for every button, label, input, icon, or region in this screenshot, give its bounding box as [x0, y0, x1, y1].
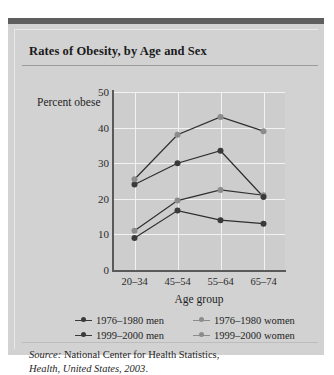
- data-point: [218, 114, 224, 120]
- data-point: [132, 176, 138, 182]
- source-prefix: Source:: [29, 349, 61, 360]
- data-point: [218, 148, 224, 154]
- legend-item: 1976–1980 women: [193, 315, 311, 326]
- x-axis-title: Age group: [113, 293, 285, 305]
- legend-item: 1999–2000 men: [75, 330, 193, 341]
- page-title: Rates of Obesity, by Age and Sex: [29, 44, 207, 59]
- legend-label: 1999–2000 men: [96, 330, 164, 341]
- x-tick-label: 65–74: [237, 276, 291, 287]
- data-point: [218, 217, 224, 223]
- legend-label: 1999–2000 women: [214, 330, 295, 341]
- data-point: [218, 187, 224, 193]
- source-text: National Center for Health Statistics,: [61, 349, 219, 360]
- figure-inner-panel: Rates of Obesity, by Age and Sex Percent…: [14, 29, 318, 349]
- legend-marker-icon: [193, 316, 210, 325]
- data-point: [132, 235, 138, 241]
- chart-legend: 1976–1980 men1976–1980 women1999–2000 me…: [75, 313, 311, 343]
- series-line: [135, 190, 264, 231]
- data-point: [175, 208, 181, 214]
- series-plot: [15, 60, 319, 288]
- data-point: [261, 221, 267, 227]
- legend-label: 1976–1980 women: [214, 315, 295, 326]
- chart-area: Percent obese 01020304050 Age group 20–3…: [15, 60, 319, 288]
- source-note: Source: National Center for Health Stati…: [29, 348, 309, 375]
- legend-row: 1999–2000 men1999–2000 women: [75, 328, 311, 343]
- series-line: [135, 211, 264, 238]
- legend-label: 1976–1980 men: [96, 315, 164, 326]
- source-suffix: .: [145, 363, 148, 374]
- source-citation: Health, United States, 2003: [29, 363, 145, 374]
- legend-row: 1976–1980 men1976–1980 women: [75, 313, 311, 328]
- legend-marker-icon: [193, 331, 210, 340]
- data-point: [175, 198, 181, 204]
- legend-item: 1999–2000 women: [193, 330, 311, 341]
- figure-top-bar: [8, 18, 324, 24]
- series-line: [135, 117, 264, 179]
- data-point: [261, 128, 267, 134]
- data-point: [132, 228, 138, 234]
- figure-panel: Rates of Obesity, by Age and Sex Percent…: [8, 18, 324, 355]
- data-point: [261, 194, 267, 200]
- data-point: [175, 132, 181, 138]
- data-point: [132, 182, 138, 188]
- series-line: [135, 151, 264, 197]
- source-divider: [22, 342, 318, 343]
- legend-item: 1976–1980 men: [75, 315, 193, 326]
- legend-marker-icon: [75, 316, 92, 325]
- data-point: [175, 160, 181, 166]
- legend-marker-icon: [75, 331, 92, 340]
